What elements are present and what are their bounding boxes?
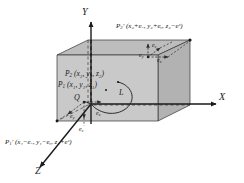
p2-sub: 2 <box>70 72 73 78</box>
top-ex-sub: x <box>160 59 162 64</box>
epsilon-label-top-ez: ez <box>152 42 156 49</box>
p1-sub: 1 <box>63 83 66 89</box>
axis-label-x: X <box>219 92 225 102</box>
epsilon-label-top-ex: ex <box>157 57 161 64</box>
top-ez-sub: z <box>155 44 157 49</box>
epsilon-label-q-ez: ez <box>79 126 83 133</box>
axis-label-y: Y <box>82 7 88 17</box>
point-label-p1: P1 (x₁, y₁, z₁) <box>58 81 97 89</box>
q-ey-sub: y <box>73 115 75 120</box>
epsilon-label-q-ey: ey <box>70 113 74 120</box>
corner-p1-coords: (x₁−eₓ, y₁−eᵧ, z₁+eᶻ) <box>15 138 72 146</box>
figure-canvas: Y X Z P2′ (x₂+eₓ, y₂+eᵧ, z₂−eᶻ) P1′ (x₁−… <box>0 0 244 183</box>
point-label-p2: P2 (x₂, y₂, z₂) <box>65 70 104 78</box>
box-corner-marker <box>56 120 59 123</box>
corner-label-p1-prime: P1′ (x₁−eₓ, y₁−eᵧ, z₁+eᶻ) <box>5 139 72 147</box>
top-ey-sub: y <box>142 54 144 59</box>
point-p1-marker <box>105 89 107 91</box>
point-p2-marker <box>117 81 119 83</box>
curve-label-l: L <box>119 89 123 97</box>
epsilon-label-q-ex: ex <box>96 110 100 117</box>
p1-coords: (x₁, y₁, z₁) <box>67 80 97 89</box>
corner-label-p2-prime: P2′ (x₂+eₓ, y₂+eᵧ, z₂−eᶻ) <box>116 23 183 31</box>
p2-coords: (x₂, y₂, z₂) <box>74 69 104 78</box>
q-ez-sub: z <box>82 128 84 133</box>
corner-p1-prime-mark: ′ <box>12 138 14 146</box>
corner-p2-coords: (x₂+eₓ, y₂+eᵧ, z₂−eᶻ) <box>126 22 183 30</box>
q-ex-sub: x <box>99 112 101 117</box>
corner-p2-prime-mark: ′ <box>123 22 125 30</box>
axis-label-z: Z <box>35 166 41 176</box>
point-label-q: Q <box>74 94 80 102</box>
epsilon-label-top-ey: ey <box>139 52 143 59</box>
